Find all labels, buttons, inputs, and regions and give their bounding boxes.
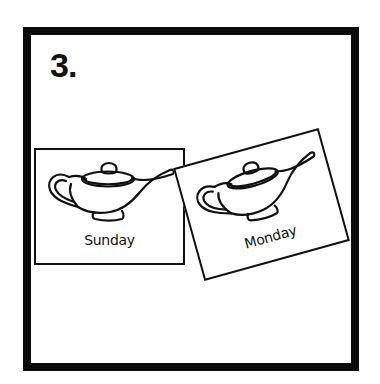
card-sunday[interactable]: Sunday	[34, 148, 185, 265]
panel-number: 3.	[50, 48, 76, 82]
card-label-sunday: Sunday	[36, 232, 183, 248]
